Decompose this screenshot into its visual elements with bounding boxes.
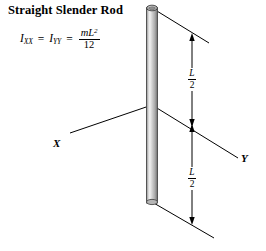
rod-top-cap-inner	[149, 7, 155, 10]
y-axis-line	[152, 105, 238, 158]
dimension-lower-denominator: 2	[190, 180, 195, 190]
diagram-svg	[0, 0, 266, 251]
x-axis-label: X	[53, 137, 60, 149]
dimension-label-lower: L 2	[186, 167, 198, 190]
figure-canvas: Straight Slender Rod IXX = IYY = mL2 12	[0, 0, 266, 251]
dimension-lower-numerator: L	[189, 168, 194, 178]
dimension-label-upper: L 2	[186, 68, 198, 91]
dimension-upper-denominator: 2	[190, 81, 195, 91]
lower-extension-line	[152, 202, 214, 238]
x-axis-line	[70, 105, 152, 133]
upper-extension-line	[152, 8, 209, 43]
rod-bottom-cap	[147, 199, 158, 204]
dimension-upper-numerator: L	[189, 69, 194, 79]
rod-body	[147, 8, 158, 203]
y-axis-label: Y	[241, 152, 248, 164]
